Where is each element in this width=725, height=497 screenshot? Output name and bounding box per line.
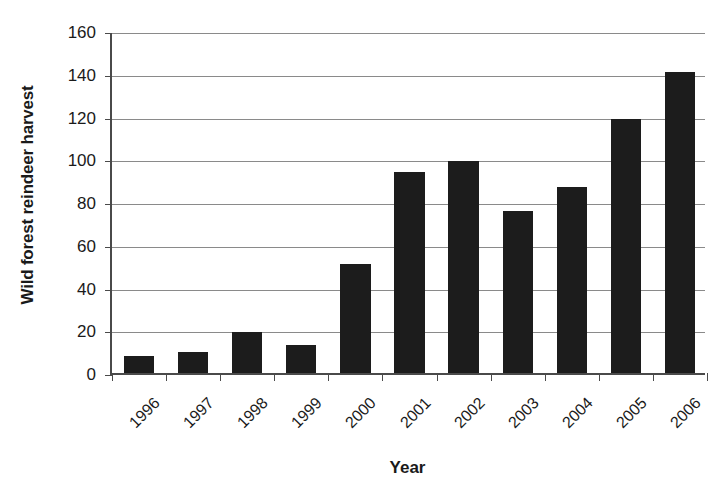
x-axis-tick-mark (491, 373, 492, 381)
y-axis-tick-mark (105, 161, 112, 162)
y-axis-tick-label: 60 (26, 237, 96, 257)
y-axis-tick-label: 0 (26, 365, 96, 385)
y-axis-tick-mark (105, 290, 112, 291)
x-axis-tick-mark (166, 373, 167, 381)
y-axis-tick-mark (105, 204, 112, 205)
y-axis-tick-labels: 020406080100120140160 (22, 33, 96, 375)
bar (286, 345, 316, 373)
bar-chart: Wild forest reindeer harvest 02040608010… (0, 0, 725, 497)
x-axis-tick-mark (220, 373, 221, 381)
x-axis-tick-mark (274, 373, 275, 381)
y-axis-tick-mark (105, 375, 112, 376)
y-axis-tick-mark (105, 119, 112, 120)
x-axis-tick-mark (437, 373, 438, 381)
x-axis-title: Year (110, 458, 705, 478)
y-axis-tick-mark (105, 247, 112, 248)
bar (124, 356, 154, 373)
x-axis-tick-label: 2000 (342, 394, 380, 432)
x-axis-tick-mark (112, 373, 113, 381)
gridline (112, 33, 705, 34)
x-axis-tick-label: 1998 (234, 394, 272, 432)
x-axis-tick-mark (653, 373, 654, 381)
bar (178, 352, 208, 373)
bar (503, 211, 533, 373)
y-axis-tick-mark (105, 76, 112, 77)
x-axis-tick-label: 2002 (450, 394, 488, 432)
x-axis-tick-mark (545, 373, 546, 381)
x-axis-tick-label: 1996 (126, 394, 164, 432)
x-axis-tick-label: 2004 (559, 394, 597, 432)
y-axis-tick-label: 140 (26, 66, 96, 86)
x-axis-tick-label: 1997 (180, 394, 218, 432)
bar (448, 161, 478, 373)
y-axis-tick-mark (105, 33, 112, 34)
x-axis-tick-mark (328, 373, 329, 381)
bar (394, 172, 424, 373)
y-axis-tick-mark (105, 332, 112, 333)
y-axis-tick-label: 40 (26, 280, 96, 300)
plot-area (110, 33, 705, 375)
y-axis-tick-label: 120 (26, 109, 96, 129)
bar (557, 187, 587, 373)
x-axis-tick-mark (707, 373, 708, 381)
x-axis-tick-label: 2005 (613, 394, 651, 432)
x-axis-tick-label: 2006 (667, 394, 705, 432)
x-axis-tick-label: 1999 (288, 394, 326, 432)
bar (232, 332, 262, 373)
y-axis-tick-label: 80 (26, 194, 96, 214)
bar (340, 264, 370, 373)
y-axis-tick-label: 20 (26, 322, 96, 342)
y-axis-tick-label: 100 (26, 151, 96, 171)
gridline (112, 76, 705, 77)
x-axis-tick-label: 2001 (396, 394, 434, 432)
bar (665, 72, 695, 373)
x-axis-tick-mark (599, 373, 600, 381)
x-axis-tick-labels: 1996199719981999200020012002200320042005… (110, 388, 705, 448)
bar (611, 119, 641, 373)
y-axis-tick-label: 160 (26, 23, 96, 43)
x-axis-tick-mark (382, 373, 383, 381)
x-axis-tick-label: 2003 (505, 394, 543, 432)
